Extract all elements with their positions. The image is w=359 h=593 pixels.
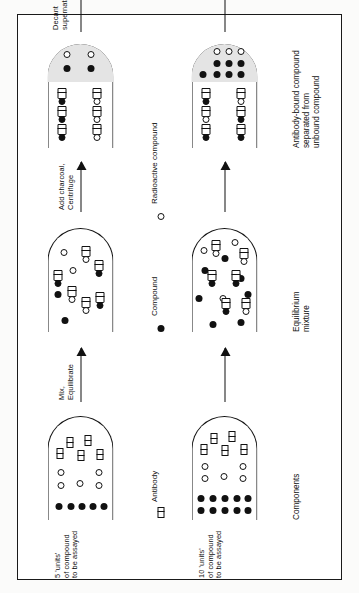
diagram-stage-final: [17, 14, 342, 580]
figure-page: 5 'units' of compound to be assayed: [0, 0, 359, 593]
figure-plate-border: 5 'units' of compound to be assayed: [17, 14, 342, 580]
